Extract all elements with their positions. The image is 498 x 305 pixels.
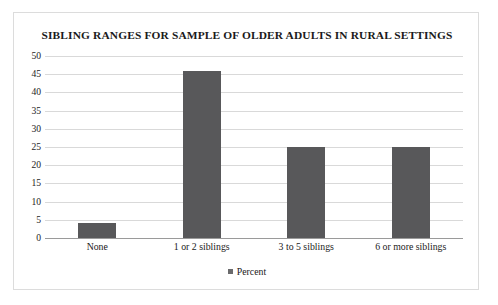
chart-figure: SIBLING RANGES FOR SAMPLE OF OLDER ADULT… [0,0,498,305]
axis-baseline [45,238,463,239]
y-tick-label: 35 [15,106,41,116]
bar-6-or-more-siblings [392,147,430,238]
x-tick-label: 1 or 2 siblings [150,241,255,252]
legend-label-percent: Percent [237,266,266,277]
chart-frame: SIBLING RANGES FOR SAMPLE OF OLDER ADULT… [13,12,479,290]
bars-layer [45,56,463,238]
x-tick-label: 6 or more siblings [359,241,464,252]
y-tick-label: 0 [15,233,41,243]
bar-none [78,223,116,238]
x-axis: None1 or 2 siblings3 to 5 siblings6 or m… [45,241,463,257]
y-tick-label: 15 [15,178,41,188]
x-tick-label: 3 to 5 siblings [254,241,359,252]
x-tick-label: None [45,241,150,252]
bar-3-to-5-siblings [287,147,325,238]
bar-1-or-2-siblings [183,71,221,238]
y-tick-label: 30 [15,124,41,134]
y-tick-label: 50 [15,51,41,61]
legend-swatch-percent [228,269,233,274]
y-axis: 50454035302520151050 [13,56,41,238]
y-tick-label: 5 [15,215,41,225]
y-tick-label: 40 [15,87,41,97]
chart-legend: Percent [14,266,480,277]
y-tick-label: 25 [15,142,41,152]
y-tick-label: 45 [15,69,41,79]
y-tick-label: 10 [15,197,41,207]
y-tick-label: 20 [15,160,41,170]
chart-title: SIBLING RANGES FOR SAMPLE OF OLDER ADULT… [14,29,480,41]
